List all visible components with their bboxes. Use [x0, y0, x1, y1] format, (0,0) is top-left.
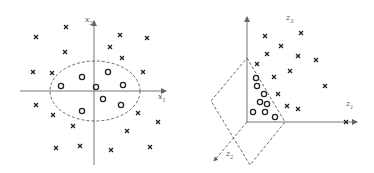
cross-marker: [51, 113, 55, 117]
circle-marker: [118, 102, 123, 107]
circle-marker: [100, 96, 105, 101]
cross-marker: [285, 104, 289, 108]
circle-marker: [261, 91, 266, 96]
cross-marker: [64, 25, 68, 29]
circle-marker: [257, 99, 262, 104]
circle-marker: [262, 109, 267, 114]
figure: x2 x1 z3 z1 z2: [0, 0, 374, 173]
cross-marker: [323, 84, 327, 88]
cross-marker: [34, 35, 38, 39]
cross-marker: [125, 129, 129, 133]
cross-marker: [272, 75, 276, 79]
cross-marker: [314, 58, 318, 62]
axis-label-x1: x1: [158, 93, 166, 103]
cross-marker: [288, 69, 292, 73]
circle-marker: [79, 74, 84, 79]
cross-marker: [118, 33, 122, 37]
axis-label-z2: z2: [226, 150, 233, 160]
cross-marker: [255, 62, 259, 66]
circle-marker: [105, 69, 110, 74]
circle-marker: [250, 109, 255, 114]
feature-space-plot: [211, 17, 357, 165]
cross-marker: [276, 92, 280, 96]
cross-marker: [296, 107, 300, 111]
cross-marker: [265, 52, 269, 56]
cross-marker: [109, 148, 113, 152]
feature-mapping-diagram: [0, 0, 374, 173]
axis-label-z1: z1: [346, 100, 353, 110]
cross-marker: [296, 54, 300, 58]
axis-label-z3: z3: [286, 14, 293, 24]
cross-marker: [279, 44, 283, 48]
cross-marker: [78, 144, 82, 148]
circle-marker: [254, 83, 259, 88]
cross-marker: [108, 45, 112, 49]
cross-marker: [156, 120, 160, 124]
circle-marker: [58, 83, 63, 88]
circle-marker: [79, 108, 84, 113]
cross-marker: [54, 146, 58, 150]
cross-marker: [136, 111, 140, 115]
cross-marker: [141, 70, 145, 74]
cross-marker: [120, 56, 124, 60]
input-space-plot: [20, 21, 166, 165]
cross-marker: [148, 145, 152, 149]
cross-marker: [50, 71, 54, 75]
circle-marker: [120, 82, 125, 87]
cross-marker: [63, 50, 67, 54]
cross-marker: [71, 124, 75, 128]
axis-label-x2: x2: [85, 16, 93, 26]
cross-marker: [263, 34, 267, 38]
circle-marker: [264, 101, 269, 106]
circle-marker: [253, 75, 258, 80]
cross-marker: [31, 70, 35, 74]
cross-marker: [145, 36, 149, 40]
separating-hyperplane: [211, 58, 285, 165]
cross-marker: [34, 103, 38, 107]
circle-marker: [272, 114, 277, 119]
cross-marker: [299, 31, 303, 35]
